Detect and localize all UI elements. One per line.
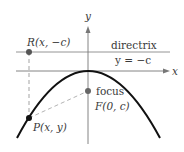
parabola-diagram: y x R(x, −c) directrix y = −c focus F(0,… — [0, 0, 184, 152]
point-r — [26, 49, 32, 55]
focus-coord-label: F(0, c) — [94, 100, 130, 112]
directrix-label: directrix — [111, 39, 157, 51]
point-p-label: P(x, y) — [32, 121, 67, 133]
x-axis-label: x — [172, 65, 178, 77]
x-axis-arrow-icon — [163, 69, 170, 74]
point-r-label: R(x, −c) — [26, 36, 70, 48]
y-axis-arrow-icon — [86, 26, 91, 33]
point-p — [26, 115, 32, 121]
directrix-equation: y = −c — [114, 54, 151, 66]
point-focus — [85, 88, 91, 94]
focus-label: focus — [96, 85, 124, 97]
y-axis-label: y — [84, 10, 92, 22]
